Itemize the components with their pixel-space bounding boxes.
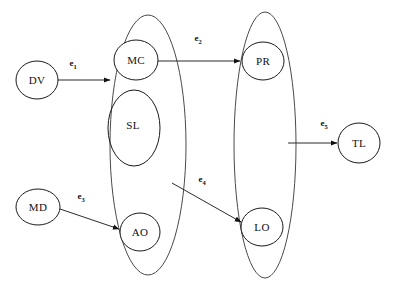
node-label-dv: DV [29,74,46,86]
diagram-svg: DV MD MC SL AO PR LO TL [0,0,394,288]
node-label-ao: AO [132,226,149,238]
node-mc[interactable]: MC [114,40,158,80]
node-lo[interactable]: LO [241,208,283,246]
node-label-tl: TL [352,137,366,149]
edge-label-e5-sub: 5 [324,123,328,130]
edge-label-e2-sub: 2 [198,38,201,45]
node-label-mc: MC [127,54,145,66]
node-dv[interactable]: DV [16,61,58,99]
node-sl[interactable]: SL [108,90,160,166]
edge-label-e1-sub: 1 [73,63,76,70]
edge-label-e5: e5 [320,118,328,130]
edge-label-e3: e3 [77,191,85,203]
edge-label-e2: e2 [194,33,201,45]
node-label-md: MD [29,201,47,213]
edge-label-e4-sub: 4 [202,179,206,186]
node-md[interactable]: MD [16,189,60,225]
node-label-pr: PR [256,55,270,67]
node-label-sl: SL [126,119,139,131]
node-ao[interactable]: AO [120,213,160,251]
edge-label-e1: e1 [69,58,76,70]
edge-line-e3 [60,209,119,229]
diagram-canvas: DV MD MC SL AO PR LO TL [0,0,394,288]
node-label-lo: LO [254,221,269,233]
edge-label-e3-sub: 3 [81,196,85,203]
node-tl[interactable]: TL [338,123,380,163]
edge-label-e4: e4 [198,174,206,186]
node-pr[interactable]: PR [242,42,284,80]
